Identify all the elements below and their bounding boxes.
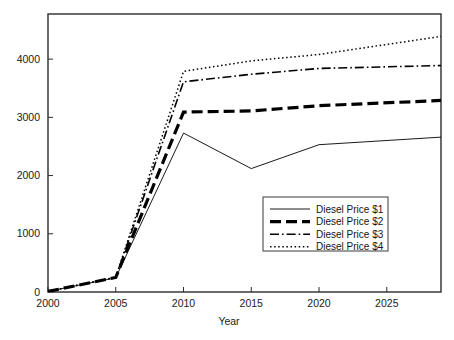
chart-legend: Diesel Price $1Diesel Price $2Diesel Pri… (263, 197, 388, 252)
y-tick-label-2000: 2000 (17, 169, 41, 181)
x-axis-tick-labels: 200020052010201520202025 (36, 297, 398, 309)
x-tick-label-2020: 2020 (307, 297, 331, 309)
y-axis-tick-labels: 01000200030004000 (17, 53, 41, 298)
y-tick-label-3000: 3000 (17, 111, 41, 123)
line-chart: 01000200030004000 2000200520102015202020… (0, 0, 454, 340)
legend-label-3: Diesel Price $3 (316, 229, 384, 240)
x-tick-label-2000: 2000 (36, 297, 60, 309)
x-tick-label-2015: 2015 (240, 297, 264, 309)
y-tick-label-4000: 4000 (17, 53, 41, 65)
x-tick-label-2025: 2025 (375, 297, 399, 309)
legend-label-4: Diesel Price $4 (316, 241, 384, 252)
legend-label-1: Diesel Price $1 (316, 204, 384, 215)
chart-container: 01000200030004000 2000200520102015202020… (0, 0, 454, 340)
y-tick-label-1000: 1000 (17, 227, 41, 239)
legend-label-2: Diesel Price $2 (316, 216, 384, 227)
y-tick-label-0: 0 (34, 286, 40, 298)
x-axis-title: Year (218, 315, 240, 327)
x-tick-label-2010: 2010 (172, 297, 196, 309)
x-tick-label-2005: 2005 (104, 297, 128, 309)
